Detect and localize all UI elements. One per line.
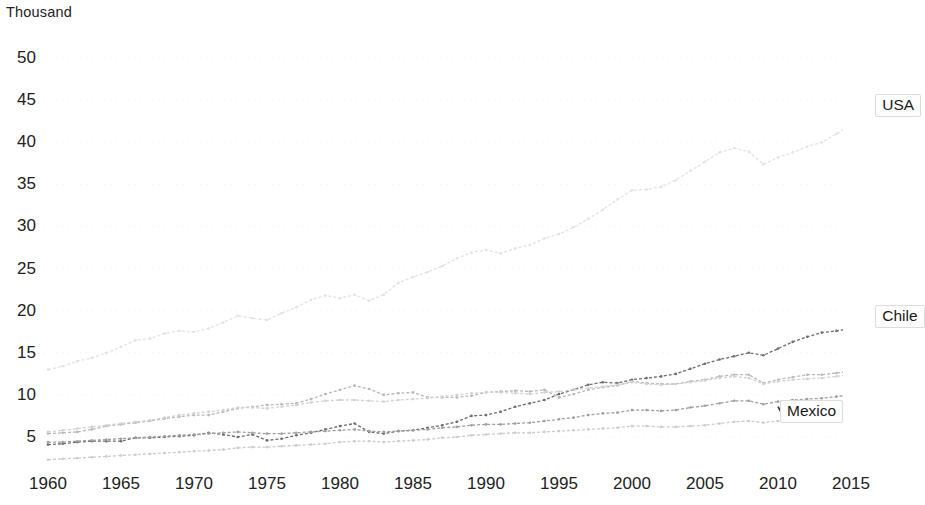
data-point: [441, 424, 444, 427]
data-point: [164, 416, 167, 419]
data-point: [149, 337, 152, 340]
series-line-mexico: [48, 369, 843, 434]
data-point: [280, 437, 283, 440]
data-point: [470, 434, 473, 437]
data-point: [397, 399, 400, 402]
data-point: [645, 383, 648, 386]
data-point: [222, 409, 225, 412]
data-point: [485, 433, 488, 436]
data-point: [266, 446, 269, 449]
data-point: [514, 392, 517, 395]
data-point: [791, 151, 794, 154]
data-point: [134, 437, 137, 440]
data-point: [441, 395, 444, 398]
data-point: [514, 432, 517, 435]
data-point: [748, 373, 751, 376]
data-point: [368, 299, 371, 302]
data-point: [514, 422, 517, 425]
data-point: [689, 368, 692, 371]
series-line-series-6: [48, 406, 843, 460]
data-point: [105, 424, 108, 427]
data-point: [835, 395, 838, 398]
data-point: [193, 450, 196, 453]
data-point: [324, 400, 327, 403]
data-point: [587, 218, 590, 221]
data-point: [470, 415, 473, 418]
data-point: [251, 446, 254, 449]
data-point: [91, 428, 94, 431]
data-point: [499, 391, 502, 394]
data-point: [558, 418, 561, 421]
data-point: [689, 381, 692, 384]
data-point: [835, 330, 838, 333]
data-point: [675, 383, 678, 386]
data-point: [193, 331, 196, 334]
data-point: [645, 425, 648, 428]
data-point: [324, 442, 327, 445]
data-point: [499, 252, 502, 255]
data-point: [587, 414, 590, 417]
data-point: [134, 339, 137, 342]
data-point: [368, 440, 371, 443]
data-point: [441, 265, 444, 268]
data-point: [426, 438, 429, 441]
data-point: [543, 389, 546, 392]
data-point: [529, 432, 532, 435]
data-point: [791, 376, 794, 379]
data-point: [718, 358, 721, 361]
data-point: [645, 377, 648, 380]
data-point: [251, 432, 254, 435]
data-point: [280, 312, 283, 315]
data-point: [120, 422, 123, 425]
data-point: [266, 407, 269, 410]
data-point: [587, 384, 590, 387]
data-point: [456, 257, 459, 260]
data-point: [324, 393, 327, 396]
data-point: [397, 282, 400, 285]
data-point: [543, 420, 546, 423]
data-point: [310, 299, 313, 302]
data-point: [237, 436, 240, 439]
data-point: [821, 331, 824, 334]
data-point: [777, 420, 780, 423]
data-point: [718, 377, 721, 380]
data-point: [631, 409, 634, 412]
data-point: [470, 394, 473, 397]
data-point: [485, 414, 488, 417]
data-point: [47, 431, 50, 434]
data-point: [222, 432, 225, 435]
data-point: [718, 422, 721, 425]
data-point: [602, 412, 605, 415]
data-point: [806, 373, 809, 376]
data-point: [164, 435, 167, 438]
data-point: [675, 179, 678, 182]
data-point: [704, 379, 707, 382]
data-point: [134, 421, 137, 424]
data-point: [120, 454, 123, 457]
data-point: [266, 319, 269, 322]
data-point: [368, 388, 371, 391]
data-point: [762, 163, 765, 166]
data-point: [91, 357, 94, 360]
data-point: [149, 436, 152, 439]
data-point: [470, 392, 473, 395]
data-point: [280, 403, 283, 406]
data-point: [660, 384, 663, 387]
data-point: [397, 440, 400, 443]
data-point: [105, 455, 108, 458]
data-point: [339, 441, 342, 444]
data-point: [383, 431, 386, 434]
data-point: [762, 383, 765, 386]
data-point: [149, 453, 152, 456]
data-point: [529, 244, 532, 247]
data-point: [572, 393, 575, 396]
data-point: [178, 434, 181, 437]
data-point: [426, 428, 429, 431]
data-point: [558, 390, 561, 393]
data-point: [76, 360, 79, 363]
data-point: [134, 453, 137, 456]
data-point: [412, 439, 415, 442]
data-point: [353, 399, 356, 402]
data-point: [821, 141, 824, 144]
